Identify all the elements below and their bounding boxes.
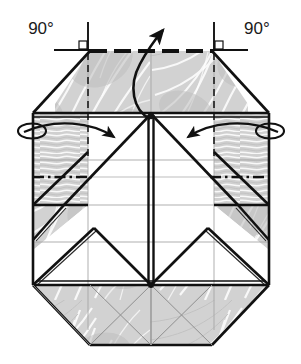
angle-label-right: 90°	[244, 19, 270, 38]
origami-diagram-root: 90° 90°	[0, 0, 301, 364]
origami-figure: 90° 90°	[0, 0, 301, 364]
angle-label-left: 90°	[28, 19, 54, 38]
paper-center-white	[88, 113, 214, 285]
center-bottom-junction	[148, 282, 154, 288]
center-top-junction	[148, 113, 154, 119]
